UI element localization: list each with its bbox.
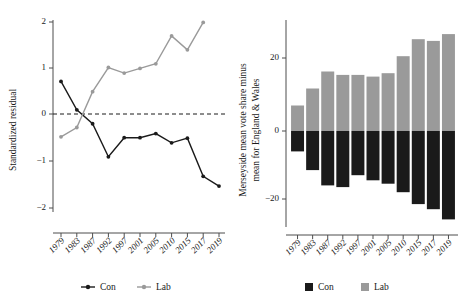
right-y-axis-title-line2: mean for England & Wales <box>251 78 261 181</box>
bar-con[interactable] <box>442 131 455 219</box>
left-legend-label-lab: Lab <box>156 282 171 292</box>
left-xtick-label: 2001 <box>126 235 146 255</box>
left-data-point-con[interactable] <box>138 136 142 140</box>
left-data-point-con[interactable] <box>154 132 158 136</box>
left-legend-marker-lab <box>142 285 146 289</box>
left-data-point-con[interactable] <box>217 184 221 188</box>
left-ytick-label: 0 <box>42 108 47 118</box>
bar-con[interactable] <box>382 131 395 184</box>
left-data-point-con[interactable] <box>75 108 79 112</box>
left-xtick-label: 1997 <box>110 235 130 255</box>
left-y-ticks: 2 1 0 −1 −2 <box>36 16 53 212</box>
bar-con[interactable] <box>336 131 349 187</box>
bar-lab[interactable] <box>367 77 380 131</box>
right-bars-group <box>290 34 456 219</box>
right-legend-item-con[interactable]: Con <box>305 282 334 292</box>
line-chart-svg: Standardized residual 2 1 0 −1 −2 197919… <box>0 0 231 303</box>
left-series-line-lab <box>61 22 203 136</box>
right-xtick-label: 2019 <box>434 237 454 257</box>
left-ytick-label: 2 <box>42 16 47 26</box>
bar-lab[interactable] <box>291 106 304 132</box>
right-ytick-label: 0 <box>275 125 280 135</box>
bar-con[interactable] <box>397 131 410 192</box>
left-data-point-lab[interactable] <box>170 34 174 38</box>
right-legend-swatch-lab <box>361 283 369 291</box>
left-data-point-lab[interactable] <box>122 71 126 75</box>
left-legend-item-lab[interactable]: Lab <box>137 282 171 292</box>
left-data-point-lab[interactable] <box>59 135 63 139</box>
left-data-point-lab[interactable] <box>138 67 142 71</box>
left-data-point-lab[interactable] <box>201 20 205 24</box>
right-legend-item-lab[interactable]: Lab <box>361 282 389 292</box>
chart-panel-left: Standardized residual 2 1 0 −1 −2 197919… <box>0 0 231 303</box>
bar-lab[interactable] <box>397 56 410 131</box>
left-ytick-label: −2 <box>36 202 46 212</box>
left-data-point-lab[interactable] <box>91 90 95 94</box>
left-data-point-con[interactable] <box>170 141 174 145</box>
right-legend-label-con: Con <box>318 282 334 292</box>
left-xtick-label: 2010 <box>157 235 177 255</box>
bar-con[interactable] <box>412 131 425 204</box>
figure-root: Standardized residual 2 1 0 −1 −2 197919… <box>0 0 461 303</box>
left-ytick-label: 1 <box>42 62 47 72</box>
left-x-ticks: 1979198319871992199720012005201020152017… <box>47 233 225 255</box>
bar-lab[interactable] <box>351 75 364 131</box>
left-data-point-con[interactable] <box>91 122 95 126</box>
left-data-point-con[interactable] <box>107 155 111 159</box>
bar-con[interactable] <box>291 131 304 151</box>
left-ytick-label: −1 <box>36 155 46 165</box>
left-series-group <box>59 20 221 187</box>
left-legend-marker-con <box>86 285 90 289</box>
bar-con[interactable] <box>351 131 364 175</box>
left-data-point-con[interactable] <box>201 174 205 178</box>
left-legend-item-con[interactable]: Con <box>81 282 116 292</box>
bar-lab[interactable] <box>382 73 395 131</box>
left-xtick-label: 1979 <box>47 235 67 255</box>
left-xtick-label: 2015 <box>173 235 193 255</box>
bar-lab[interactable] <box>321 72 334 132</box>
right-legend-label-lab: Lab <box>374 282 389 292</box>
left-legend: Con Lab <box>81 282 171 292</box>
left-series-line-con <box>61 81 219 186</box>
right-ytick-label: 20 <box>270 52 280 62</box>
bar-lab[interactable] <box>306 89 319 132</box>
right-y-axis-title-line1: Merseyside mean vote share minus <box>238 63 248 197</box>
bar-con[interactable] <box>427 131 440 209</box>
bar-lab[interactable] <box>336 75 349 131</box>
left-xtick-label: 1983 <box>62 235 82 255</box>
bar-con[interactable] <box>367 131 380 180</box>
right-legend-swatch-con <box>305 283 313 291</box>
left-data-point-lab[interactable] <box>186 48 190 52</box>
left-xtick-label: 1992 <box>94 235 114 255</box>
bar-lab[interactable] <box>427 41 440 131</box>
left-data-point-con[interactable] <box>122 136 126 140</box>
left-y-axis-title: Standardized residual <box>8 89 18 171</box>
bar-chart-svg: Merseyside mean vote share minus mean fo… <box>230 0 461 303</box>
left-data-point-con[interactable] <box>186 136 190 140</box>
bar-lab[interactable] <box>442 34 455 131</box>
left-xtick-label: 2005 <box>141 235 161 255</box>
right-ytick-label: −20 <box>265 193 280 203</box>
bar-lab[interactable] <box>412 39 425 131</box>
left-data-point-lab[interactable] <box>75 126 79 130</box>
left-xtick-label: 2019 <box>205 235 225 255</box>
left-data-point-lab[interactable] <box>154 62 158 66</box>
right-legend: Con Lab <box>305 282 389 292</box>
left-xtick-label: 2017 <box>189 235 209 255</box>
chart-panel-right: Merseyside mean vote share minus mean fo… <box>230 0 461 303</box>
left-data-point-lab[interactable] <box>107 66 111 70</box>
left-legend-label-con: Con <box>100 282 116 292</box>
right-x-ticks: 1979198319871992199720012005201020152017… <box>283 235 454 257</box>
left-xtick-label: 1987 <box>78 235 98 255</box>
right-y-ticks: 20 0 −20 <box>265 52 286 203</box>
bar-con[interactable] <box>306 131 319 170</box>
left-data-point-con[interactable] <box>59 80 63 84</box>
bar-con[interactable] <box>321 131 334 185</box>
